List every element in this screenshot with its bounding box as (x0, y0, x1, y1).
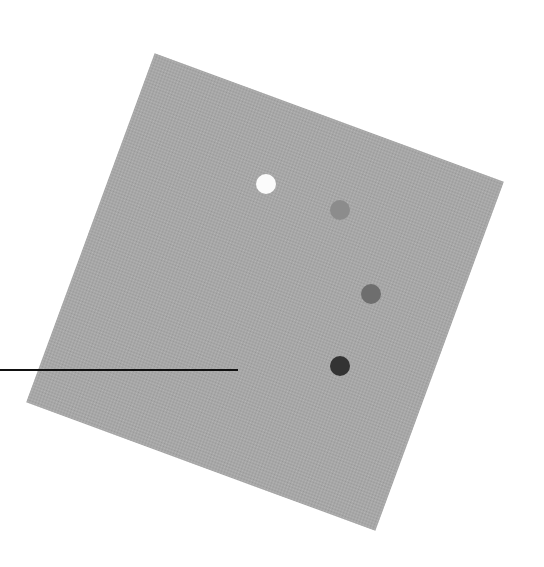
diagram-figure (0, 0, 544, 567)
rotated-gray-square (26, 53, 504, 531)
medium-gray-dot (361, 284, 381, 304)
pointer-line (0, 369, 238, 371)
dark-gray-dot (330, 356, 350, 376)
light-gray-dot (330, 200, 350, 220)
white-dot (256, 174, 276, 194)
